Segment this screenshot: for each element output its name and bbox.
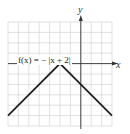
y-axis-label: y (78, 5, 82, 15)
function-label: f(x) = − |x + 2| (17, 55, 72, 65)
function-graph (0, 0, 130, 134)
y-axis-arrow-icon (79, 15, 83, 21)
x-axis-label: x (116, 60, 120, 70)
grid-lines (8, 22, 112, 126)
